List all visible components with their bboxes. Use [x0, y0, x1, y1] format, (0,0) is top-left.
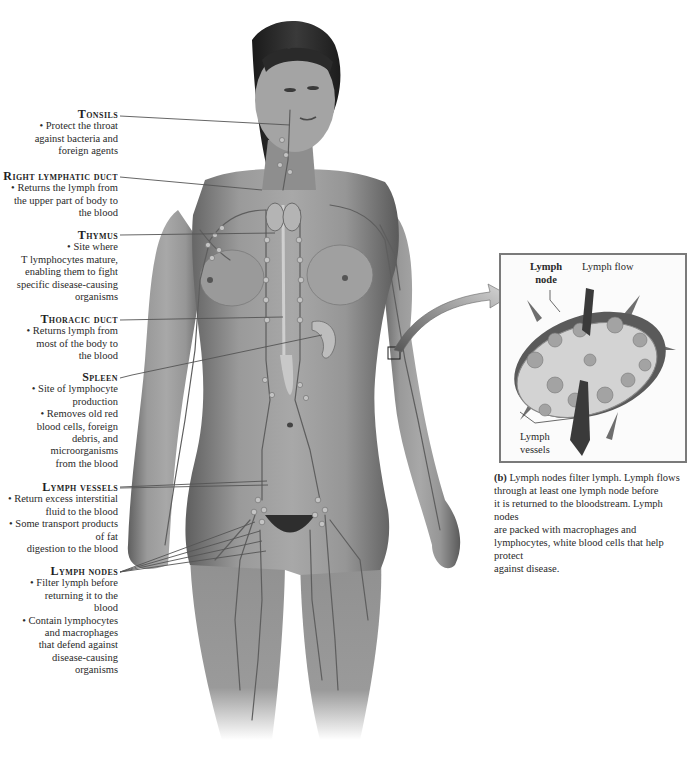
- label-text: • Some transport products: [0, 518, 118, 530]
- caption-line: through at least one lymph node before: [494, 485, 658, 496]
- label-spleen: Spleen • Site of lymphocyte production •…: [0, 371, 118, 470]
- caption-line: against disease.: [494, 563, 559, 574]
- label-text: against bacteria and: [20, 133, 118, 145]
- label-text: the blood: [0, 207, 118, 219]
- label-text: and macrophages: [0, 627, 118, 639]
- label-title: Thymus: [0, 229, 118, 241]
- label-text: most of the body to: [0, 338, 118, 350]
- caption-line: lymphocytes, white blood cells that help…: [494, 537, 664, 561]
- label-lymph-vessels: Lymph vessels • Return excess interstiti…: [0, 481, 118, 555]
- label-text: • Returns the lymph from: [0, 182, 118, 194]
- label-lymph-nodes: Lymph nodes • Filter lymph before return…: [0, 565, 118, 677]
- label-title: Tonsils: [20, 108, 118, 120]
- caption-line: are packed with macrophages and: [494, 524, 636, 535]
- label-text: disease-causing: [0, 652, 118, 664]
- label-text: • Filter lymph before: [0, 577, 118, 589]
- label-text: organisms: [0, 291, 118, 303]
- label-right-lymphatic-duct: Right lymphatic duct • Returns the lymph…: [0, 170, 118, 220]
- label-text: foreign agents: [20, 145, 118, 157]
- label-text: • Returns lymph from: [0, 325, 118, 337]
- inset-label-lymph-node: Lymph node: [530, 260, 562, 286]
- label-title: Lymph vessels: [0, 481, 118, 493]
- label-title: Right lymphatic duct: [0, 170, 118, 182]
- label-text: enabling them to fight: [0, 266, 118, 278]
- caption-line: it is returned to the bloodstream. Lymph…: [494, 498, 663, 522]
- label-text: • Site where: [0, 241, 118, 253]
- label-text: • Removes old red: [0, 408, 118, 420]
- label-text: Lymph: [530, 260, 562, 273]
- inset-label-lymph-flow: Lymph flow: [582, 260, 634, 273]
- label-text: node: [530, 273, 562, 286]
- inset-label-lymph-vessels: Lymph vessels: [520, 430, 550, 456]
- label-text: of fat: [0, 531, 118, 543]
- label-text: fluid to the blood: [0, 506, 118, 518]
- label-text: from the blood: [0, 458, 118, 470]
- label-text: returning it to the: [0, 590, 118, 602]
- label-text: specific disease-causing: [0, 279, 118, 291]
- label-text: • Contain lymphocytes: [0, 615, 118, 627]
- label-text: blood: [0, 602, 118, 614]
- label-text: • Return excess interstitial: [0, 493, 118, 505]
- label-text: organisms: [0, 664, 118, 676]
- caption-line: Lymph nodes filter lymph. Lymph flows: [509, 472, 679, 483]
- thoracic-duct: [283, 205, 284, 370]
- figure-caption: (b) Lymph nodes filter lymph. Lymph flow…: [494, 471, 686, 575]
- label-text: the blood: [0, 350, 118, 362]
- label-thymus: Thymus • Site where T lymphocytes mature…: [0, 229, 118, 303]
- label-text: Lymph: [520, 430, 550, 443]
- label-text: • Protect the throat: [20, 120, 118, 132]
- label-title: Spleen: [0, 371, 118, 383]
- label-text: digestion to the blood: [0, 543, 118, 555]
- label-title: Thoracic duct: [0, 313, 118, 325]
- label-text: • Site of lymphocyte: [0, 383, 118, 395]
- label-text: vessels: [520, 443, 550, 456]
- label-text: debris, and: [0, 433, 118, 445]
- label-tonsils: Tonsils • Protect the throat against bac…: [20, 108, 118, 158]
- label-text: T lymphocytes mature,: [0, 254, 118, 266]
- label-text: blood cells, foreign: [0, 421, 118, 433]
- label-title: Lymph nodes: [0, 565, 118, 577]
- label-thoracic-duct: Thoracic duct • Returns lymph from most …: [0, 313, 118, 363]
- label-text: production: [0, 396, 118, 408]
- label-text: the upper part of body to: [0, 195, 118, 207]
- label-text: that defend against: [0, 639, 118, 651]
- caption-letter: (b): [494, 472, 507, 483]
- label-text: microorganisms: [0, 445, 118, 457]
